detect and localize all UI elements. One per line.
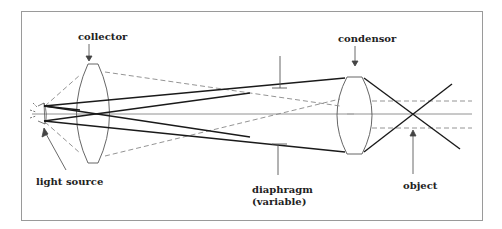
optical-diagram: collector light source diaphragm (variab… — [0, 0, 502, 229]
diaphragm — [272, 56, 287, 175]
light-source-icon — [30, 103, 46, 124]
condensor-label: condensor — [338, 33, 397, 44]
condensor-arrow-head — [352, 61, 358, 66]
collector-label: collector — [78, 31, 128, 42]
object-arrow-head — [410, 130, 416, 136]
object-label: object — [403, 180, 438, 191]
collector-arrow-head — [86, 56, 92, 61]
light-source-label: light source — [36, 176, 103, 187]
diaphragm-sub-label: (variable) — [252, 196, 306, 207]
condensor-lens — [337, 77, 372, 154]
light-source-arrow — [45, 132, 66, 170]
diaphragm-label: diaphragm — [252, 184, 313, 195]
